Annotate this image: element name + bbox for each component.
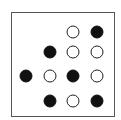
- hollow-circle-icon: [67, 95, 80, 108]
- filled-circle-icon: [91, 95, 104, 108]
- filled-circle-icon: [44, 95, 57, 108]
- hollow-circle-icon: [67, 26, 80, 39]
- hollow-circle-icon: [91, 46, 104, 59]
- hollow-circle-icon: [44, 70, 57, 83]
- hollow-circle-icon: [91, 70, 104, 83]
- filled-circle-icon: [91, 26, 104, 39]
- filled-circle-icon: [44, 46, 57, 59]
- filled-circle-icon: [20, 70, 33, 83]
- filled-circle-icon: [67, 70, 80, 83]
- hollow-circle-icon: [67, 46, 80, 59]
